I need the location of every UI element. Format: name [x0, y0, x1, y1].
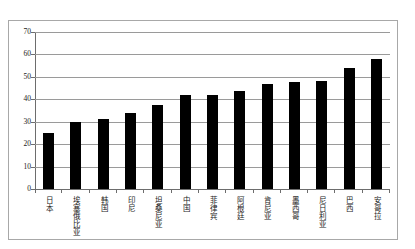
y-tick-label: 30	[24, 118, 32, 126]
bar[interactable]	[152, 105, 163, 189]
category-tick	[335, 189, 362, 194]
category-label-cell: 墨西哥	[281, 196, 308, 240]
bar-slot	[308, 32, 335, 189]
category-label-cell: 埃塞俄比亚	[62, 196, 89, 240]
category-label-cell: 尼日利亚	[308, 196, 335, 240]
category-tick	[254, 189, 281, 194]
bar-slot	[172, 32, 199, 189]
bar[interactable]	[70, 122, 81, 189]
category-tick	[363, 189, 390, 194]
category-tick	[199, 189, 226, 194]
category-label-cell: 阿根廷	[226, 196, 253, 240]
category-label: 阿根廷	[236, 196, 244, 220]
bar[interactable]	[43, 133, 54, 189]
category-label: 菲律宾	[209, 196, 217, 220]
bar-slot	[62, 32, 89, 189]
category-tick	[308, 189, 335, 194]
bar-slot	[90, 32, 117, 189]
category-label: 肯尼亚	[263, 196, 271, 220]
category-tick	[172, 189, 199, 194]
category-tick	[281, 189, 308, 194]
category-label: 埃塞俄比亚	[72, 196, 80, 236]
category-tick	[226, 189, 253, 194]
y-tick-label: 10	[24, 163, 32, 171]
category-label-cell: 菲律宾	[199, 196, 226, 240]
bar[interactable]	[371, 59, 382, 189]
category-label-cell: 韩国	[90, 196, 117, 240]
category-label-cell: 安哥拉	[363, 196, 390, 240]
bar-slot	[335, 32, 362, 189]
category-tick	[35, 189, 62, 194]
category-label: 日本	[45, 196, 53, 212]
bar-slot	[144, 32, 171, 189]
category-tick	[144, 189, 171, 194]
chart-frame: 70 60 50 40 30 20 10 0	[8, 20, 398, 240]
category-label-cell: 印尼	[117, 196, 144, 240]
category-label-cell: 中国	[172, 196, 199, 240]
category-label: 安哥拉	[373, 196, 381, 220]
bar-slot	[226, 32, 253, 189]
bar[interactable]	[180, 95, 191, 189]
category-label: 韩国	[99, 196, 107, 212]
bar-slot	[35, 32, 62, 189]
category-tick	[90, 189, 117, 194]
bar[interactable]	[98, 119, 109, 189]
y-tick-label: 20	[24, 140, 32, 148]
category-axis-labels: 日本 埃塞俄比亚 韩国 印尼 坦桑尼亚 中国 菲律宾 阿根廷 肯尼亚 墨西哥 尼…	[35, 196, 390, 240]
bar[interactable]	[234, 91, 245, 189]
category-label: 巴西	[345, 196, 353, 212]
bar-slot	[199, 32, 226, 189]
category-label: 坦桑尼亚	[154, 196, 162, 228]
category-label: 墨西哥	[291, 196, 299, 220]
category-label-cell: 巴西	[335, 196, 362, 240]
category-tick	[117, 189, 144, 194]
bar-slot	[117, 32, 144, 189]
bar[interactable]	[316, 81, 327, 189]
bar-slot	[254, 32, 281, 189]
category-axis-ticks	[35, 189, 390, 194]
y-tick-label: 40	[24, 96, 32, 104]
bar[interactable]	[289, 82, 300, 189]
bar[interactable]	[125, 113, 136, 189]
category-label: 中国	[181, 196, 189, 212]
category-label-cell: 肯尼亚	[254, 196, 281, 240]
bar[interactable]	[344, 68, 355, 189]
y-tick-label: 50	[24, 73, 32, 81]
category-tick	[62, 189, 89, 194]
y-tick-label: 60	[24, 51, 32, 59]
y-axis-tick-labels: 70 60 50 40 30 20 10 0	[9, 32, 31, 189]
bar[interactable]	[262, 84, 273, 189]
bar[interactable]	[207, 95, 218, 189]
bar-series	[35, 32, 390, 189]
category-label-cell: 坦桑尼亚	[144, 196, 171, 240]
y-tick-label: 70	[24, 28, 32, 36]
category-label-cell: 日本	[35, 196, 62, 240]
category-label: 尼日利亚	[318, 196, 326, 228]
category-label: 印尼	[127, 196, 135, 212]
bar-slot	[281, 32, 308, 189]
bar-slot	[363, 32, 390, 189]
